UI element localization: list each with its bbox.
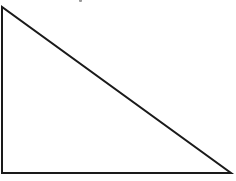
right-triangle-figure xyxy=(0,0,236,181)
right-triangle xyxy=(2,7,231,173)
diagram-canvas xyxy=(0,0,236,181)
cropped-label-fragment xyxy=(79,0,82,2)
